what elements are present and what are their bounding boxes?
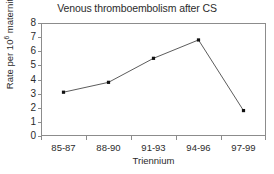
data-point-marker [197, 38, 200, 41]
y-axis-label-prefix: Rate per 10 [4, 40, 15, 90]
x-axis-tick-mark [176, 136, 177, 140]
y-axis-label-suffix: maternities [4, 0, 15, 36]
x-axis-tick-mark [131, 136, 132, 140]
x-axis-tick-mark [86, 136, 87, 140]
y-axis-label-superscript: 6 [3, 36, 10, 40]
y-axis-tick-label: 4 [24, 75, 36, 85]
y-axis-tick-label: 7 [24, 32, 36, 42]
data-series-markers [62, 38, 245, 112]
x-axis-tick-mark [265, 136, 266, 140]
data-point-marker [107, 81, 110, 84]
y-axis-tick-label: 2 [24, 103, 36, 113]
x-axis-tick-labels: 85-8788-9091-9394-9697-99 [41, 142, 266, 154]
y-axis-tick-label: 3 [24, 89, 36, 99]
x-axis-label: Triennium [41, 155, 266, 166]
x-axis-tick-label: 97-99 [221, 142, 266, 153]
y-axis-label: Rate per 106 maternities [3, 0, 17, 97]
y-axis-tick-label: 8 [24, 18, 36, 28]
data-point-marker [152, 57, 155, 60]
x-axis-tick-mark [41, 136, 42, 140]
y-axis-tick-label: 5 [24, 60, 36, 70]
y-axis-tick-label: 0 [24, 131, 36, 141]
chart-title: Venous thromboembolism after CS [0, 2, 274, 14]
y-axis-tick-label: 1 [24, 117, 36, 127]
x-axis-tick-label: 85-87 [41, 142, 86, 153]
data-point-marker [242, 109, 245, 112]
chart-container: Venous thromboembolism after CS Rate per… [0, 0, 274, 174]
x-axis-tick-label: 91-93 [131, 142, 176, 153]
x-axis-tick-label: 94-96 [176, 142, 221, 153]
y-axis-tick-label: 6 [24, 46, 36, 56]
data-series-line [64, 40, 244, 111]
x-axis-tick-marks [41, 136, 266, 141]
data-point-marker [62, 91, 65, 94]
x-axis-tick-label: 88-90 [86, 142, 131, 153]
x-axis-tick-mark [221, 136, 222, 140]
plot-area [41, 23, 266, 136]
y-axis-tick-labels: 876543210 [20, 0, 36, 174]
